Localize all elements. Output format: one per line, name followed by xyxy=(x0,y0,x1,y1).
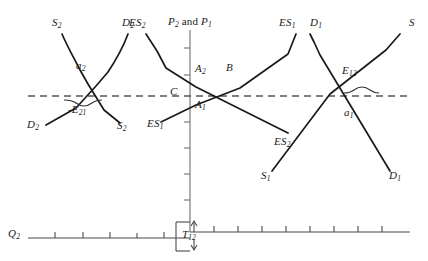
label-trade-volume-t12: T12 xyxy=(182,229,196,240)
label-excess-supply-2-top: ES2 xyxy=(129,17,145,28)
label-excess-supply-1-top: ES1 xyxy=(279,17,295,28)
label-point-a1: A1 xyxy=(195,99,206,110)
label-point-a2: A2 xyxy=(195,63,206,74)
left-axis-ticks xyxy=(55,232,164,238)
vertical-axis-ticks xyxy=(184,48,190,200)
right-axis-ticks xyxy=(214,226,382,232)
label-excess-supply-1-bottom: ES1 xyxy=(147,118,163,129)
label-supply-2-top: S2 xyxy=(52,17,61,28)
right-panel-curves xyxy=(272,34,400,171)
brace-e12 xyxy=(344,87,379,93)
label-autarky-point-a2: a2 xyxy=(76,60,85,71)
label-demand-1-bottom: D1 xyxy=(389,170,401,181)
demand-curve-d1 xyxy=(310,34,390,171)
label-autarky-point-a1: a1 xyxy=(344,107,353,118)
left-panel-curves xyxy=(46,34,128,125)
diagram-canvas xyxy=(0,0,428,261)
label-excess-supply-e21: -E21 xyxy=(68,104,86,115)
label-demand-2-bottom: D2 xyxy=(27,119,39,130)
left-axis-title-q2: Q2 xyxy=(8,228,20,239)
vertical-axis-title: P2 and P1 xyxy=(168,16,212,27)
label-supply-top: S xyxy=(409,17,415,28)
label-excess-supply-2-bottom: ES2 xyxy=(274,136,290,147)
label-demand-1-top: D1 xyxy=(310,17,322,28)
label-supply-1-bottom: S1 xyxy=(261,170,270,181)
label-supply-2-bottom: S2 xyxy=(117,120,126,131)
label-equilibrium-point-b: B xyxy=(226,62,233,73)
demand-curve-d2 xyxy=(46,34,128,125)
supply-curve-s1 xyxy=(272,34,400,171)
price-line-marker-c: C xyxy=(170,86,178,97)
label-excess-demand-e12: E12 xyxy=(342,65,356,76)
economics-diagram-figure: P2 and P1 Q2 C S2 D2 a2 -E21 D2 S2 ES2 E… xyxy=(0,0,428,261)
middle-panel-curves xyxy=(146,34,296,133)
